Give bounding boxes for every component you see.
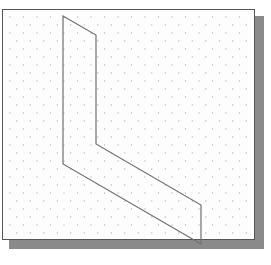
grid-dot [111, 200, 112, 201]
grid-dot [158, 16, 159, 17]
grid-dot [144, 64, 145, 65]
grid-dot [205, 24, 206, 25]
grid-dot [57, 56, 58, 57]
grid-dot [246, 136, 247, 137]
grid-dot [158, 128, 159, 129]
grid-dot [97, 72, 98, 73]
grid-dot [111, 24, 112, 25]
grid-dot [84, 72, 85, 73]
grid-dot [239, 112, 240, 113]
grid-dot [192, 24, 193, 25]
grid-dot [158, 80, 159, 81]
grid-dot [131, 176, 132, 177]
grid-dot [225, 176, 226, 177]
grid-dot [84, 216, 85, 217]
grid-dot [30, 104, 31, 105]
grid-dot [57, 168, 58, 169]
grid-dot [23, 128, 24, 129]
grid-dot [205, 136, 206, 137]
grid-dot [198, 128, 199, 129]
grid-dot [151, 184, 152, 185]
grid-dot [131, 64, 132, 65]
grid-dot [171, 16, 172, 17]
grid-dot [178, 56, 179, 57]
grid-dot [212, 16, 213, 17]
grid-dot [171, 128, 172, 129]
grid-dot [84, 24, 85, 25]
grid-dot [219, 120, 220, 121]
grid-dot [246, 152, 247, 153]
grid-dot [9, 208, 10, 209]
grid-dot [165, 152, 166, 153]
grid-dot [70, 216, 71, 217]
grid-dot [36, 48, 37, 49]
grid-dot [30, 40, 31, 41]
grid-dot [57, 200, 58, 201]
grid-dot [144, 160, 145, 161]
grid-dot [219, 72, 220, 73]
grid-dot [50, 176, 51, 177]
grid-dot [23, 16, 24, 17]
grid-dot [104, 48, 105, 49]
grid-dot [63, 192, 64, 193]
grid-dot [131, 32, 132, 33]
grid-dot [104, 192, 105, 193]
grid-dot [16, 232, 17, 233]
grid-dot [158, 112, 159, 113]
grid-dot [111, 168, 112, 169]
grid-dot [97, 232, 98, 233]
grid-dot [124, 152, 125, 153]
grid-dot [192, 216, 193, 217]
grid-dot [90, 144, 91, 145]
grid-dot [232, 200, 233, 201]
grid-dot [198, 176, 199, 177]
grid-dot [50, 208, 51, 209]
grid-dot [84, 120, 85, 121]
grid-dot [50, 16, 51, 17]
grid-dot [178, 168, 179, 169]
grid-dot [104, 208, 105, 209]
grid-dot [16, 104, 17, 105]
grid-dot [111, 40, 112, 41]
grid-dot [90, 112, 91, 113]
grid-dot [232, 232, 233, 233]
grid-dot [36, 128, 37, 129]
grid-dot [23, 112, 24, 113]
grid-dot [84, 232, 85, 233]
grid-dot [246, 200, 247, 201]
grid-dot [111, 104, 112, 105]
grid-dot [239, 208, 240, 209]
grid-dot [158, 96, 159, 97]
grid-dot [50, 48, 51, 49]
grid-dot [212, 176, 213, 177]
grid-dot [124, 88, 125, 89]
grid-dot [9, 64, 10, 65]
grid-dot [97, 200, 98, 201]
grid-dot [198, 64, 199, 65]
grid-dot [90, 192, 91, 193]
grid-dot [124, 232, 125, 233]
grid-dot [246, 104, 247, 105]
grid-dot [43, 104, 44, 105]
grid-dot [131, 160, 132, 161]
grid-dot [111, 88, 112, 89]
grid-dot [239, 80, 240, 81]
grid-dot [219, 88, 220, 89]
grid-dot [165, 232, 166, 233]
grid-dot [23, 48, 24, 49]
grid-dot [212, 48, 213, 49]
grid-dot [70, 40, 71, 41]
grid-dot [232, 56, 233, 57]
grid-dot [70, 72, 71, 73]
grid-dot [43, 24, 44, 25]
grid-dot [212, 64, 213, 65]
grid-dot [198, 32, 199, 33]
grid-dot [144, 32, 145, 33]
grid-dot [205, 200, 206, 201]
grid-dot [144, 128, 145, 129]
grid-dot [138, 104, 139, 105]
grid-dot [9, 192, 10, 193]
grid-dot [198, 224, 199, 225]
grid-dot [198, 16, 199, 17]
grid-dot [104, 64, 105, 65]
